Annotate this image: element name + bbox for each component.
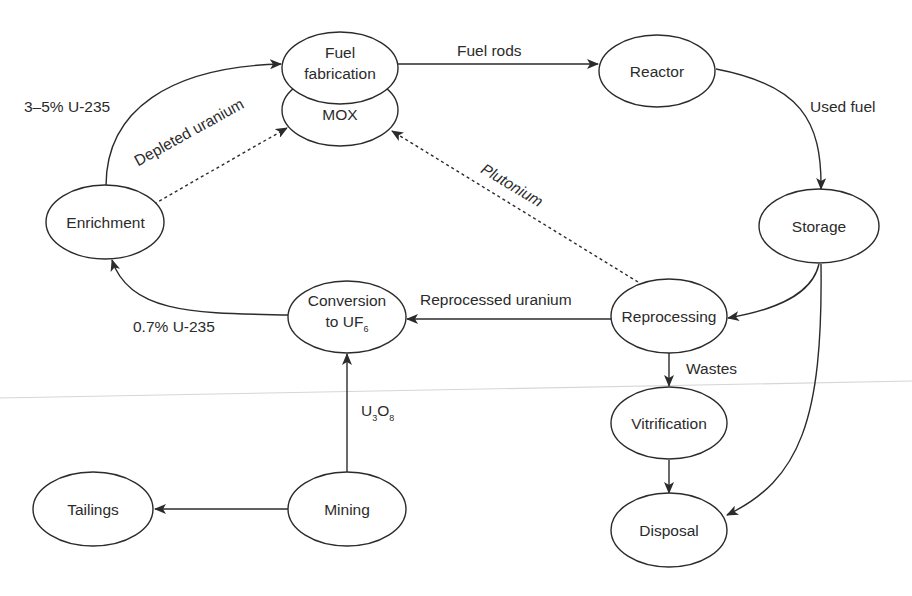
edge-storage-to-reprocessing <box>728 264 819 318</box>
edge-plutonium <box>392 131 638 282</box>
reactor-label: Reactor <box>630 61 684 82</box>
vitrification-label: Vitrification <box>631 413 707 434</box>
node-reprocessing: Reprocessing <box>607 305 731 327</box>
tailings-label: Tailings <box>67 499 119 520</box>
label-used-fuel: Used fuel <box>810 98 875 116</box>
label-3-5-percent: 3–5% U-235 <box>24 98 110 116</box>
node-mining: Mining <box>288 498 406 520</box>
edge-conversion-to-enrichment <box>112 260 288 315</box>
u3o8-sub2: 8 <box>389 413 394 423</box>
label-wastes: Wastes <box>686 360 737 378</box>
node-mox: MOX <box>282 103 398 125</box>
node-conversion: Conversion to UF6 <box>288 292 406 338</box>
node-fuel-fabrication: Fuel fabrication <box>282 40 398 86</box>
reprocessing-label: Reprocessing <box>622 306 717 327</box>
disposal-label: Disposal <box>639 520 698 541</box>
node-disposal: Disposal <box>611 519 727 541</box>
enrichment-label: Enrichment <box>66 212 144 233</box>
edge-storage-to-disposal <box>727 264 821 515</box>
edge-used-fuel <box>716 69 821 189</box>
mining-label: Mining <box>324 499 370 520</box>
node-enrichment: Enrichment <box>46 211 165 233</box>
node-storage: Storage <box>759 215 879 237</box>
mox-label: MOX <box>322 104 357 125</box>
conversion-line2-main: to UF <box>326 313 364 330</box>
fuel-cycle-diagram: Fuel fabrication MOX Reactor Storage Enr… <box>0 0 912 596</box>
label-reprocessed-uranium: Reprocessed uranium <box>420 291 572 309</box>
storage-label: Storage <box>792 216 846 237</box>
fuel-fabrication-line1: Fuel <box>325 42 355 63</box>
node-reactor: Reactor <box>599 60 715 82</box>
conversion-line2: to UF6 <box>326 311 369 340</box>
u3o8-u: U <box>361 402 372 419</box>
scan-artifact-line <box>0 381 912 398</box>
node-vitrification: Vitrification <box>611 412 727 434</box>
fuel-fabrication-line2: fabrication <box>304 63 376 84</box>
label-0-7-percent: 0.7% U-235 <box>133 318 215 336</box>
node-tailings: Tailings <box>33 498 153 520</box>
conversion-line1: Conversion <box>308 290 386 311</box>
u3o8-o: O <box>377 402 389 419</box>
conversion-subscript: 6 <box>363 324 368 334</box>
label-u3o8: U3O8 <box>361 402 394 427</box>
label-fuel-rods: Fuel rods <box>457 42 522 60</box>
